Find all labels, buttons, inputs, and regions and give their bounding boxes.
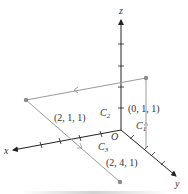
- curve-c2: [26, 78, 146, 100]
- z-axis: [118, 20, 124, 130]
- point-label-2-4-1: (2, 4, 1): [106, 157, 138, 169]
- y-axis-label: y: [174, 178, 180, 189]
- point-label-2-1-1: (2, 1, 1): [54, 112, 86, 124]
- curve-label-c3: C3: [98, 141, 109, 154]
- y-axis: [121, 130, 176, 176]
- curve-label-c1: C1: [136, 120, 146, 133]
- point-2-4-1: [118, 180, 122, 184]
- origin-label: O: [111, 131, 118, 142]
- point-label-0-1-1: (0, 1, 1): [128, 103, 160, 115]
- curve-label-c2: C2: [100, 107, 111, 120]
- z-axis-label: z: [118, 5, 123, 16]
- bottom-edge-shadow: [20, 191, 168, 194]
- point-0-1-1: [144, 76, 148, 80]
- x-axis-label: x: [3, 145, 9, 156]
- point-2-1-1: [24, 98, 28, 102]
- 3d-path-diagram: z x y O (0, 1, 1) (2, 1, 1) (2, 4, 1): [0, 0, 188, 194]
